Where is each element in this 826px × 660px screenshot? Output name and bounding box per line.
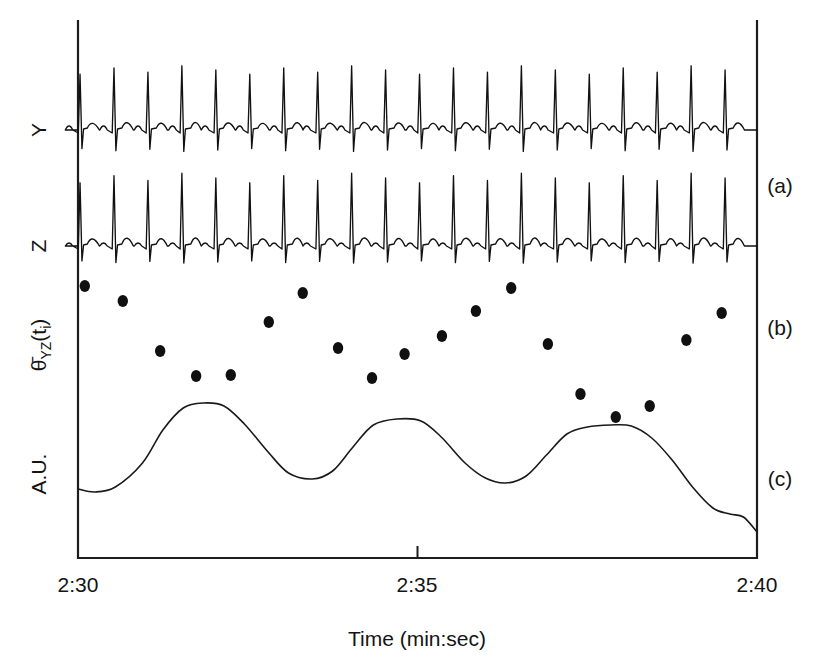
panel-label-b: (b) [767, 316, 793, 339]
theta-marker [645, 400, 655, 412]
row-label-y: Y [27, 123, 50, 137]
row-label-theta-group: θ̄YZ(ti) [27, 319, 54, 372]
ecg-trace-y [65, 66, 757, 152]
theta-marker [575, 388, 585, 400]
theta-marker [191, 370, 201, 382]
trace-group-au [78, 403, 757, 532]
theta-marker [298, 287, 308, 299]
row-label-au: A.U. [27, 454, 50, 495]
trace-group-z [65, 173, 757, 263]
theta-marker [471, 305, 481, 317]
panel-labels: (a) (b) (c) [767, 174, 793, 490]
panel-label-a: (a) [767, 174, 793, 197]
row-labels: Y Z θ̄YZ(ti) A.U. [27, 123, 54, 494]
theta-scatter-markers [80, 280, 727, 423]
theta-marker [716, 307, 726, 319]
ecg-trace-z [65, 173, 757, 263]
theta-marker [226, 369, 236, 381]
theta-marker [437, 330, 447, 342]
row-label-z: Z [27, 239, 50, 252]
theta-marker [118, 295, 128, 307]
theta-marker [399, 348, 409, 360]
trace-group-y [65, 66, 757, 152]
x-tick-label-end: 2:40 [737, 573, 778, 596]
figure-container: Y Z θ̄YZ(ti) A.U. (a) (b) (c) 2:30 2:35 … [0, 0, 826, 660]
theta-marker [367, 372, 377, 384]
panel-label-c: (c) [768, 467, 793, 490]
theta-marker [543, 338, 553, 350]
theta-marker [506, 282, 516, 294]
x-axis-tick-labels: 2:30 2:35 2:40 [58, 573, 778, 596]
figure-canvas: Y Z θ̄YZ(ti) A.U. (a) (b) (c) 2:30 2:35 … [0, 0, 826, 660]
plot-frame [78, 21, 757, 558]
theta-marker [264, 316, 274, 328]
theta-marker [611, 411, 621, 423]
respiration-trace [78, 403, 757, 532]
theta-marker [80, 280, 90, 292]
axis-frame [78, 21, 757, 558]
theta-marker [155, 345, 165, 357]
x-tick-label-mid: 2:35 [397, 573, 438, 596]
x-axis-title: Time (min:sec) [348, 627, 486, 650]
theta-marker [333, 342, 343, 354]
row-label-theta: θ̄YZ(ti) [27, 319, 54, 372]
theta-marker [681, 334, 691, 346]
x-tick-label-start: 2:30 [58, 573, 99, 596]
